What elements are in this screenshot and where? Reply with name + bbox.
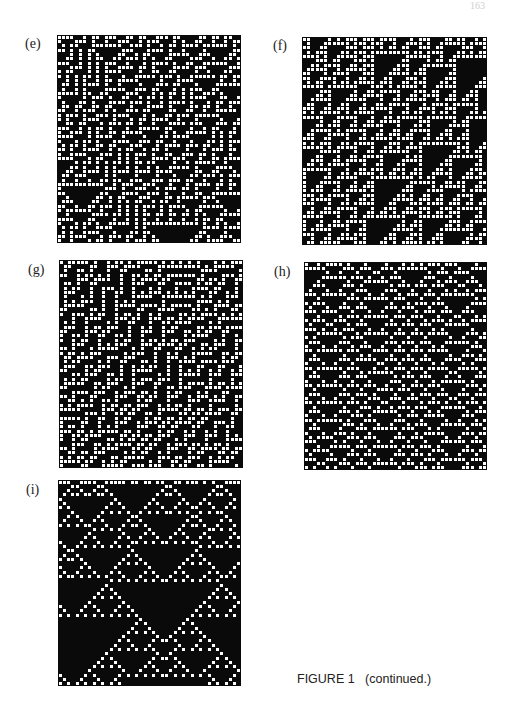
panel-label-f: (f)	[273, 38, 287, 54]
page-number: 163	[470, 0, 485, 11]
ca-pattern-panel-e	[57, 35, 241, 243]
panel-label-h: (h)	[274, 264, 290, 280]
ca-pattern-panel-f	[302, 37, 487, 245]
figure-caption: FIGURE 1 (continued.)	[297, 672, 431, 686]
panel-label-i: (i)	[26, 482, 39, 498]
panel-label-g: (g)	[28, 262, 44, 278]
panel-label-e: (e)	[25, 36, 41, 52]
ca-pattern-panel-h	[304, 262, 487, 470]
ca-pattern-panel-i	[58, 480, 241, 686]
ca-pattern-panel-g	[59, 260, 243, 468]
